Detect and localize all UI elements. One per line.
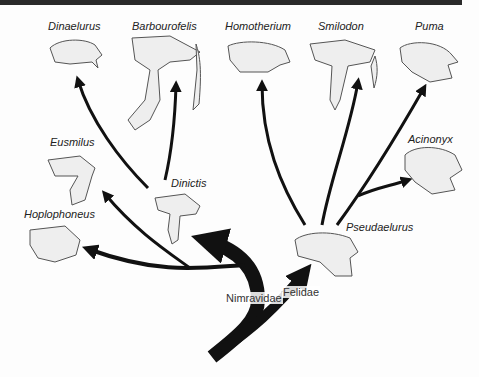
label-felidae: Felidae [282, 286, 320, 298]
skull-pseudaelurus [295, 233, 358, 276]
skull-barbourofelis [128, 36, 200, 130]
label-pseudaelurus: Pseudaelurus [346, 221, 413, 233]
skull-puma [400, 43, 458, 82]
tree-branches [0, 0, 479, 377]
skull-acinonyx [405, 148, 462, 195]
label-nimravidae: Nimravidae [225, 292, 283, 304]
skull-homotherium [228, 42, 290, 72]
label-smilodon: Smilodon [318, 20, 364, 32]
label-hoplophoneus: Hoplophoneus [24, 208, 95, 220]
skull-eusmilus [48, 156, 95, 205]
label-puma: Puma [415, 20, 444, 32]
label-dinaelurus: Dinaelurus [48, 20, 101, 32]
skull-dinaelurus [50, 40, 102, 68]
label-eusmilus: Eusmilus [50, 136, 95, 148]
branch-barbourofelis [165, 85, 176, 180]
sabre-smilodon [371, 56, 377, 88]
phylogeny-diagram: Dinaelurus Barbourofelis Homotherium Smi… [0, 0, 479, 377]
skull-smilodon [310, 40, 375, 110]
label-dinictis: Dinictis [171, 177, 206, 189]
branch-homotherium [262, 84, 305, 225]
skull-dinictis [155, 194, 200, 244]
felidae-branch [222, 272, 305, 350]
label-barbourofelis: Barbourofelis [132, 20, 197, 32]
skull-hoplophoneus [30, 226, 80, 262]
label-homotherium: Homotherium [225, 20, 291, 32]
label-acinonyx: Acinonyx [408, 133, 453, 145]
